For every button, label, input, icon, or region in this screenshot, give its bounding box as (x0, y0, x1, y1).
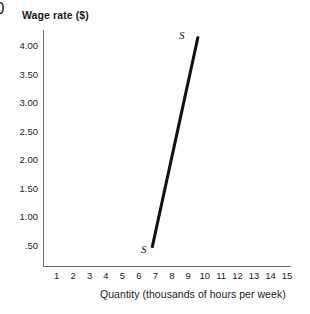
supply-curve-line (152, 36, 198, 247)
supply-curve-label-bottom: S (141, 243, 147, 255)
plot-area (0, 0, 310, 314)
x-axis-title: Quantity (thousands of hours per week) (100, 288, 286, 300)
supply-curve-figure: Wage rate ($) 4.003.503.002.502.001.501.… (0, 0, 310, 314)
supply-curve-label-top: S (179, 29, 185, 41)
